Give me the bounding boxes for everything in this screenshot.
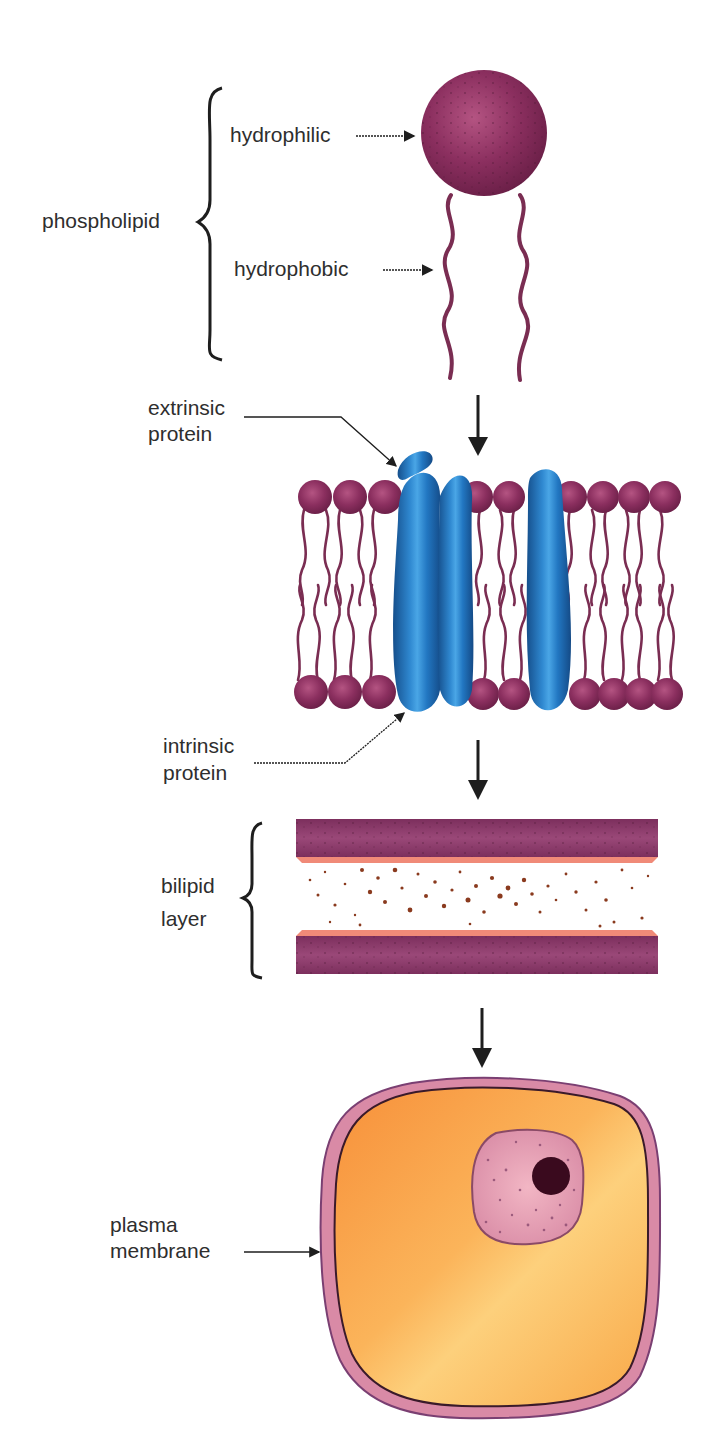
phospholipid-molecule: [421, 70, 547, 380]
membrane-with-proteins: [294, 451, 683, 712]
label-bilipid-layer-1: bilipid: [161, 873, 215, 898]
intrinsic-pointer: [254, 713, 404, 763]
label-intrinsic-protein-1: intrinsic: [163, 733, 234, 758]
flow-arrow-2: [468, 740, 488, 800]
label-plasma-membrane-1: plasma: [110, 1212, 178, 1237]
intrinsic-protein-left: [393, 473, 473, 712]
bilayer-top-edge: [296, 857, 658, 863]
label-hydrophobic: hydrophobic: [234, 256, 348, 281]
label-plasma-membrane-2: membrane: [110, 1238, 210, 1263]
flow-arrow-3: [472, 1008, 492, 1068]
bilipid-brace: [243, 823, 262, 978]
cell: [321, 1078, 660, 1418]
extrinsic-pointer: [244, 417, 396, 466]
lipid-tails: [298, 510, 674, 680]
bilayer-bottom-edge: [296, 930, 658, 936]
label-intrinsic-protein-2: protein: [163, 760, 227, 785]
nucleus: [472, 1130, 583, 1244]
lipid-heads-top: [298, 480, 681, 514]
bilipid-layer: [296, 819, 658, 974]
flow-arrow-1: [468, 395, 488, 456]
label-phospholipid: phospholipid: [42, 208, 160, 233]
label-bilipid-layer-2: layer: [161, 906, 207, 931]
label-hydrophilic: hydrophilic: [230, 122, 330, 147]
lipid-heads-bottom: [294, 675, 683, 710]
hydrophobic-tails: [444, 195, 528, 380]
bilayer-interior-specks: [309, 868, 650, 928]
phospholipid-brace: [198, 88, 222, 360]
label-extrinsic-protein-1: extrinsic: [148, 395, 225, 420]
label-extrinsic-protein-2: protein: [148, 421, 212, 446]
nucleolus: [532, 1157, 570, 1195]
